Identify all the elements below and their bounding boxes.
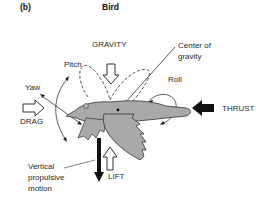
figure-title: Bird	[102, 3, 119, 12]
yaw-arrow	[42, 96, 80, 123]
center-of-gravity-dot	[117, 109, 120, 112]
lift-arrow-icon	[103, 147, 117, 170]
center-of-gravity-label-2: gravity	[178, 52, 202, 61]
gravity-label: GRAVITY	[92, 40, 127, 49]
thrust-arrow-icon	[192, 100, 214, 116]
drag-label: DRAG	[20, 117, 43, 126]
thrust-label: THRUST	[222, 104, 254, 113]
vertical-propulsive-arrow-icon	[94, 138, 104, 182]
panel-label: (b)	[20, 3, 31, 12]
bird-far-wing	[78, 118, 106, 140]
center-of-gravity-label-1: Center of	[178, 41, 211, 50]
gravity-arrow-icon	[103, 64, 119, 84]
yaw-label: Yaw	[25, 83, 40, 92]
vertical-propulsive-label-1: Vertical	[28, 162, 54, 171]
vertical-propulsive-label-3: motion	[28, 184, 52, 193]
lift-label: LIFT	[108, 172, 124, 181]
pitch-arc	[56, 78, 68, 140]
pitch-label: Pitch	[64, 60, 82, 69]
vertical-propulsive-pointer	[64, 160, 95, 168]
bird-eye	[84, 104, 89, 109]
roll-label: Roll	[168, 75, 182, 84]
drag-arrow-icon	[23, 100, 44, 116]
vertical-propulsive-label-2: propulsive	[28, 173, 64, 182]
pitch-loop-left	[80, 65, 110, 100]
